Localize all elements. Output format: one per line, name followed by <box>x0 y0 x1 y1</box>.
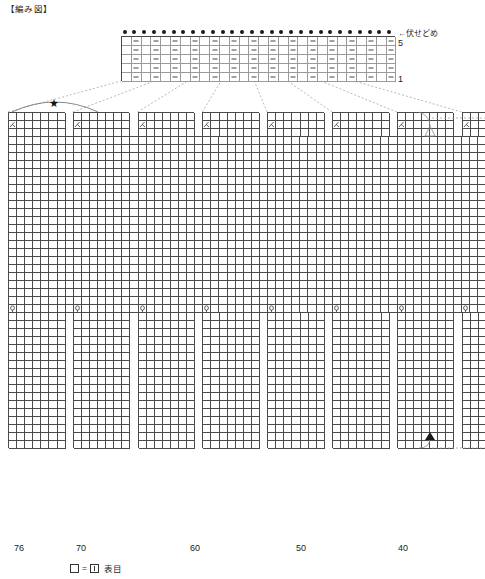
main-chart-cell[interactable] <box>66 193 74 201</box>
main-chart-cell[interactable] <box>470 249 478 257</box>
main-chart-cell[interactable] <box>58 377 66 385</box>
main-chart-cell[interactable] <box>463 385 471 393</box>
main-chart-cell[interactable] <box>373 433 381 441</box>
main-chart-cell[interactable] <box>430 209 438 217</box>
main-chart-cell[interactable] <box>211 321 219 329</box>
main-chart-cell[interactable] <box>446 113 454 121</box>
main-chart-cell[interactable] <box>252 233 260 241</box>
main-chart-cell[interactable] <box>276 169 284 177</box>
main-chart-cell[interactable] <box>236 417 244 425</box>
main-chart-cell[interactable] <box>211 185 219 193</box>
main-chart-cell[interactable] <box>462 257 470 265</box>
main-chart-cell[interactable] <box>58 369 66 377</box>
main-chart-cell[interactable] <box>373 385 381 393</box>
main-chart-cell[interactable] <box>41 169 49 177</box>
main-chart-cell[interactable] <box>33 329 41 337</box>
main-chart-cell[interactable] <box>252 169 260 177</box>
main-chart-cell[interactable] <box>41 433 49 441</box>
main-chart-cell[interactable] <box>471 121 479 129</box>
main-chart-cell[interactable] <box>382 353 390 361</box>
main-chart-cell[interactable] <box>74 273 82 281</box>
main-chart-cell[interactable] <box>220 377 228 385</box>
main-chart-cell[interactable] <box>308 153 316 161</box>
main-chart-cell[interactable] <box>155 137 163 145</box>
main-chart-cell[interactable] <box>187 345 195 353</box>
main-chart-bottom-panel[interactable] <box>332 312 389 448</box>
main-chart-cell[interactable] <box>365 425 373 433</box>
main-chart-cell[interactable] <box>58 313 66 321</box>
main-chart-cell[interactable] <box>41 361 49 369</box>
main-chart-cell[interactable] <box>130 225 138 233</box>
main-chart-cell[interactable] <box>333 185 341 193</box>
main-chart-cell[interactable] <box>430 257 438 265</box>
main-chart-cell[interactable] <box>33 409 41 417</box>
main-chart-cell[interactable] <box>284 321 292 329</box>
main-chart-cell[interactable] <box>430 193 438 201</box>
main-chart-cell[interactable] <box>309 329 317 337</box>
main-chart-cell[interactable] <box>114 257 122 265</box>
main-chart-cell[interactable] <box>471 329 479 337</box>
main-chart-cell[interactable] <box>236 137 244 145</box>
main-chart-cell[interactable] <box>228 201 236 209</box>
main-chart-cell[interactable] <box>74 433 82 441</box>
main-chart-cell[interactable] <box>17 217 25 225</box>
main-chart-cell[interactable] <box>203 377 211 385</box>
main-chart-cell[interactable] <box>58 353 66 361</box>
main-chart-cell[interactable] <box>309 121 317 129</box>
main-chart-cell[interactable] <box>446 249 454 257</box>
main-chart-cell[interactable] <box>106 273 114 281</box>
main-chart-cell[interactable] <box>414 329 422 337</box>
main-chart-cell[interactable] <box>357 385 365 393</box>
main-chart-cell[interactable] <box>398 193 406 201</box>
main-chart-cell[interactable] <box>139 393 147 401</box>
main-chart-cell[interactable] <box>17 145 25 153</box>
main-chart-cell[interactable] <box>357 185 365 193</box>
decrease-symbol-icon[interactable] <box>74 121 82 129</box>
main-chart-cell[interactable] <box>430 313 438 321</box>
main-chart-cell[interactable] <box>333 201 341 209</box>
main-chart-cell[interactable] <box>478 289 485 297</box>
main-chart-cell[interactable] <box>244 145 252 153</box>
main-chart-cell[interactable] <box>357 257 365 265</box>
main-chart-cell[interactable] <box>236 385 244 393</box>
main-chart-cell[interactable] <box>333 417 341 425</box>
main-chart-cell[interactable] <box>179 201 187 209</box>
main-chart-cell[interactable] <box>114 345 122 353</box>
main-chart-cell[interactable] <box>422 177 430 185</box>
main-chart-cell[interactable] <box>446 433 454 441</box>
main-chart-cell[interactable] <box>292 137 300 145</box>
main-chart-cell[interactable] <box>357 329 365 337</box>
main-chart-cell[interactable] <box>147 441 155 449</box>
main-chart-cell[interactable] <box>17 201 25 209</box>
main-chart-cell[interactable] <box>398 345 406 353</box>
main-chart-cell[interactable] <box>25 289 33 297</box>
main-chart-cell[interactable] <box>470 153 478 161</box>
main-chart-cell[interactable] <box>414 401 422 409</box>
main-chart-cell[interactable] <box>90 113 98 121</box>
main-chart-cell[interactable] <box>228 353 236 361</box>
main-chart-cell[interactable] <box>422 345 430 353</box>
main-chart-cell[interactable] <box>219 153 227 161</box>
main-chart-cell[interactable] <box>74 177 82 185</box>
main-chart-cell[interactable] <box>49 353 57 361</box>
main-chart-cell[interactable] <box>325 185 333 193</box>
main-chart-cell[interactable] <box>317 161 325 169</box>
main-chart-cell[interactable] <box>357 361 365 369</box>
main-chart-cell[interactable] <box>341 289 349 297</box>
main-chart-cell[interactable] <box>17 377 25 385</box>
main-chart-cell[interactable] <box>406 353 414 361</box>
main-chart-cell[interactable] <box>219 177 227 185</box>
main-chart-cell[interactable] <box>211 409 219 417</box>
main-chart-cell[interactable] <box>300 265 308 273</box>
main-chart-cell[interactable] <box>357 193 365 201</box>
main-chart-cell[interactable] <box>106 345 114 353</box>
main-chart-cell[interactable] <box>398 353 406 361</box>
main-chart-cell[interactable] <box>422 369 430 377</box>
main-chart-cell[interactable] <box>82 369 90 377</box>
main-chart-cell[interactable] <box>220 321 228 329</box>
main-chart-cell[interactable] <box>155 145 163 153</box>
main-chart-cell[interactable] <box>236 425 244 433</box>
main-chart-cell[interactable] <box>122 361 130 369</box>
main-chart-cell[interactable] <box>9 193 17 201</box>
main-chart-cell[interactable] <box>228 313 236 321</box>
